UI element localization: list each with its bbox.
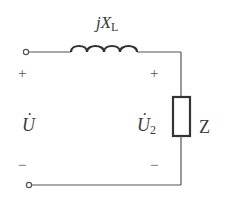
impedance-icon [173,97,190,136]
load-voltage-subscript: 2 [150,123,156,137]
input-terminal-top [23,49,28,54]
load-minus-sign: − [150,158,158,173]
source-voltage-label: U [22,116,35,134]
load-voltage-label: U2 [137,116,156,136]
load-plus-sign: + [150,66,158,81]
source-plus-sign: + [18,66,26,81]
source-minus-sign: − [18,158,26,173]
inductor-label-main: jX [96,13,111,32]
source-voltage-symbol: U [22,116,35,134]
inductor-icon [71,46,137,52]
inductor-label-subscript: L [111,20,118,34]
impedance-label: Z [199,118,210,136]
input-terminal-bottom [26,182,31,187]
inductor-label: jXL [96,14,118,33]
load-voltage-symbol: U [137,116,150,134]
